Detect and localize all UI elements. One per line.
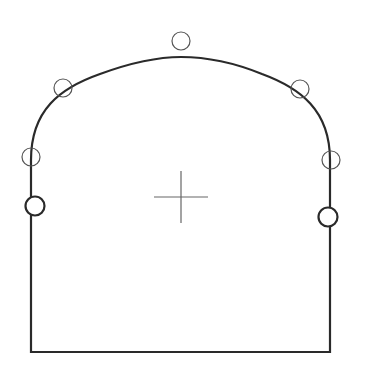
measurement-point-lower-right-icon — [319, 208, 338, 227]
tunnel-cross-section-diagram — [0, 0, 368, 388]
measurement-points-thin — [22, 32, 340, 169]
center-crosshair-icon — [154, 171, 208, 223]
diagram-canvas — [0, 0, 368, 388]
measurement-point-lower-left-icon — [26, 197, 45, 216]
measurement-point-crown-icon — [172, 32, 190, 50]
